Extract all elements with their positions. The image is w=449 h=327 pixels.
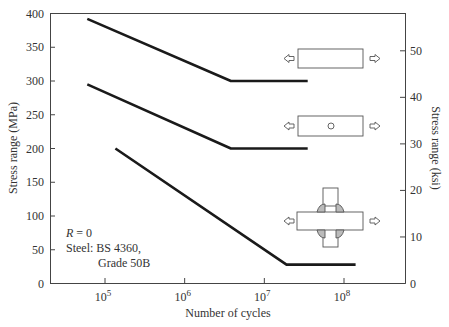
- sn-curve-1: [87, 19, 307, 81]
- x-axis-title: Number of cycles: [185, 306, 271, 320]
- left-tick-label: 100: [26, 209, 44, 223]
- right-tick-label: 30: [410, 137, 422, 151]
- left-tick-label: 250: [26, 108, 44, 122]
- right-tick-label: 40: [410, 90, 422, 104]
- test-conditions-annotation: R = 0 Steel: BS 4360, Grade 50B: [65, 226, 150, 270]
- left-tick-label: 200: [26, 142, 44, 156]
- right-tick-label: 0: [410, 277, 416, 291]
- steel-grade-label: Grade 50B: [98, 256, 150, 270]
- left-tick-label: 50: [32, 243, 44, 257]
- left-tick-label: 400: [26, 7, 44, 21]
- right-tick-label: 10: [410, 230, 422, 244]
- x-tick-label: 106: [174, 288, 191, 304]
- x-tick-label: 108: [334, 288, 351, 304]
- left-y-axis-title: Stress range (MPa): [6, 102, 20, 194]
- right-tick-label: 20: [410, 183, 422, 197]
- fatigue-sn-chart: 050100150200250300350400 01020304050 105…: [0, 0, 449, 327]
- left-tick-label: 300: [26, 74, 44, 88]
- stress-ratio-label: R = 0: [65, 226, 92, 240]
- left-tick-label: 150: [26, 175, 44, 189]
- left-tick-label: 350: [26, 40, 44, 54]
- sn-curve-2: [87, 84, 307, 148]
- x-tick-label: 107: [254, 288, 271, 304]
- plate-with-hole-icon: [284, 116, 380, 136]
- right-tick-label: 50: [410, 44, 422, 58]
- x-tick-label: 105: [95, 288, 112, 304]
- left-tick-label: 0: [38, 277, 44, 291]
- steel-spec-label: Steel: BS 4360,: [66, 241, 141, 255]
- cruciform-weld-icon: [284, 188, 380, 247]
- plain-plate-icon: [284, 49, 380, 68]
- x-axis-ticks: 105106107108: [95, 278, 351, 304]
- right-y-axis-title: Stress range (ksi): [429, 106, 443, 189]
- right-y-axis-ticks: 01020304050: [400, 44, 422, 291]
